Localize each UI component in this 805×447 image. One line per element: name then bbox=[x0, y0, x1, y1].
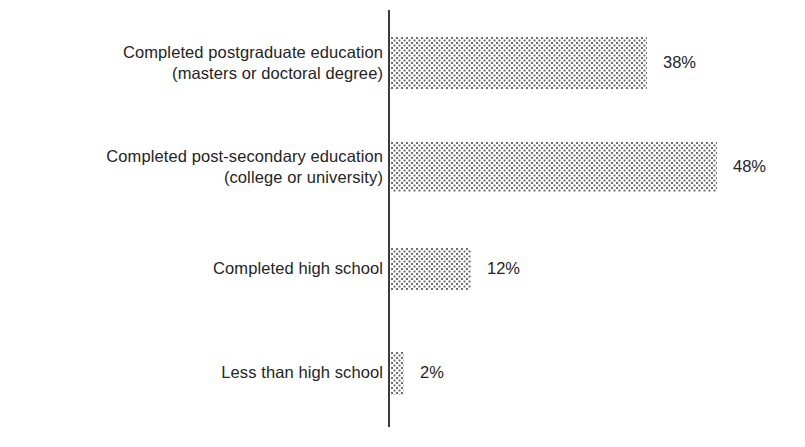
category-label-line1: Completed high school bbox=[213, 259, 383, 277]
category-axis-line bbox=[388, 10, 390, 427]
bar-value-label: 48% bbox=[733, 156, 766, 177]
category-label: Completed post-secondary education (coll… bbox=[106, 146, 383, 188]
category-label: Completed postgraduate education (master… bbox=[123, 42, 383, 84]
category-label-line1: Completed post-secondary education bbox=[106, 147, 383, 165]
bar-segment[interactable] bbox=[391, 37, 647, 89]
bar-segment[interactable] bbox=[391, 352, 404, 395]
bar-value-label: 38% bbox=[663, 52, 696, 73]
horizontal-bar-chart: Completed postgraduate education (master… bbox=[0, 0, 805, 447]
category-label: Completed high school bbox=[213, 258, 383, 279]
bar-segment[interactable] bbox=[391, 248, 471, 290]
category-label: Less than high school bbox=[221, 362, 383, 383]
category-label-line2: (masters or doctoral degree) bbox=[123, 63, 383, 84]
category-label-line2: (college or university) bbox=[106, 167, 383, 188]
bar-value-label: 12% bbox=[487, 258, 520, 279]
bar-value-label: 2% bbox=[420, 362, 444, 383]
category-label-line1: Completed postgraduate education bbox=[123, 43, 383, 61]
category-label-line1: Less than high school bbox=[221, 363, 383, 381]
bar-segment[interactable] bbox=[391, 142, 717, 192]
